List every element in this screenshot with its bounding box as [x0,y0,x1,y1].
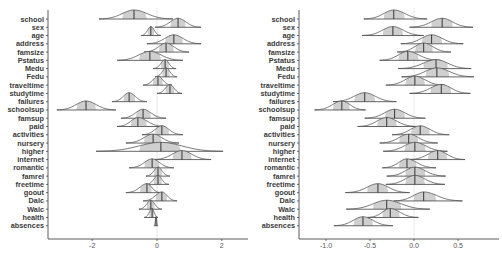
ridge-studytime [410,84,471,93]
ridge-sex [410,18,473,27]
ridge-age [362,27,424,36]
ridge-Medu [398,60,471,69]
interval-band [398,51,418,60]
interval-band [384,10,405,19]
ridge-goout [345,184,409,193]
interval-band [333,101,350,110]
ridge-activities [392,126,449,135]
ridge-freetime [386,175,445,184]
ridge-health [367,208,418,217]
ridge-famsup [365,109,426,118]
ridge-failures [333,93,396,102]
ridge-famsize [397,43,451,52]
ridge-Walc [346,200,430,209]
ridge-nursery [380,134,438,143]
ridge-Pstatus [380,51,441,60]
ridge-romantic [382,159,436,168]
ridge-paid [358,118,417,127]
ridge-schoolsup [315,101,366,110]
ridge-higher [383,142,447,151]
x-tick-label: -1.0 [320,242,332,249]
x-tick-label: 0.0 [409,242,419,249]
figure: schoolsexageaddressfamsizePstatusMeduFed… [0,0,502,256]
ridge-traveltime [386,76,445,85]
x-tick-label: 0.5 [453,242,463,249]
ridge-address [401,35,463,44]
ridgeline-plot-right: schoolsexageaddressfamsizePstatusMeduFed… [0,0,502,256]
y-label-absences: absences [262,221,295,230]
ridge-internet [409,151,465,160]
ridge-famrel [387,167,446,176]
ridge-Fedu [402,68,474,77]
ridge-school [364,10,427,19]
x-tick-label: -0.5 [364,242,376,249]
ridge-absences [334,217,393,226]
ridge-Dalc [394,192,463,201]
